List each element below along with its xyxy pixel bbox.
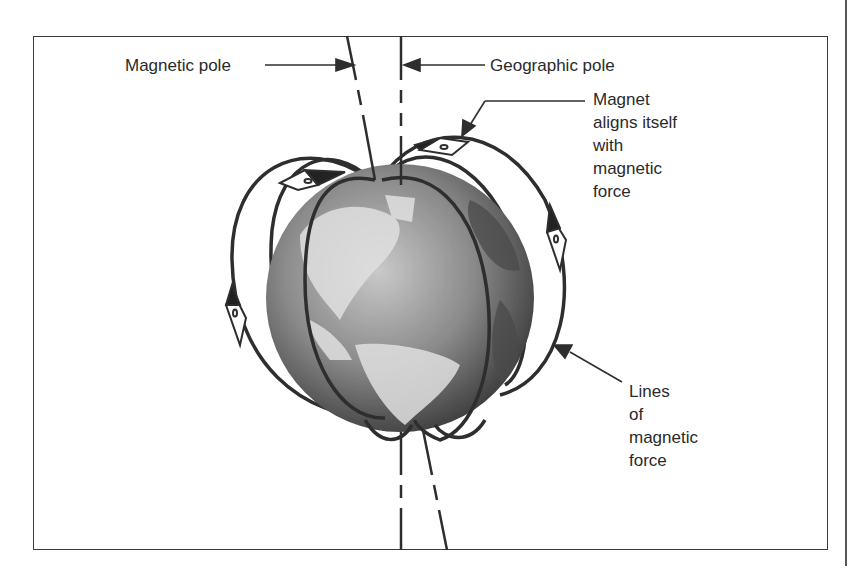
compass-needle-right-top (415, 138, 468, 155)
label-magnetic-pole: Magnetic pole (125, 54, 231, 77)
magnetic-field-illustration (0, 0, 861, 578)
label-lines-of-force: Lines of magnetic force (629, 380, 698, 472)
label-geographic-pole: Geographic pole (490, 54, 615, 77)
label-magnet-aligns: Magnet aligns itself with magnetic force (593, 88, 677, 203)
compass-needle-left (226, 285, 246, 345)
